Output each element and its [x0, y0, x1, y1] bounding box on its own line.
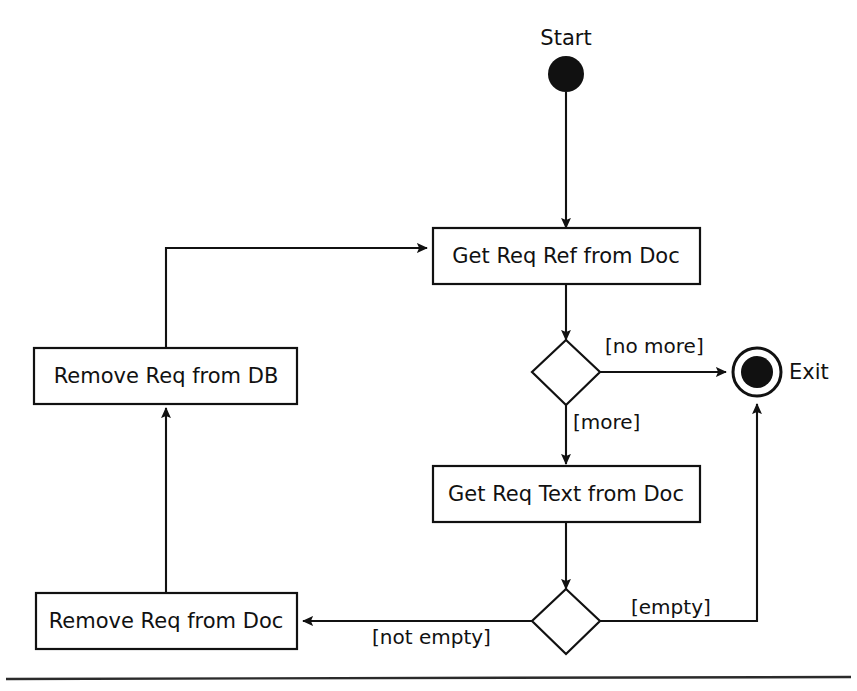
activity-remove-req-doc-label: Remove Req from Doc — [49, 609, 284, 633]
final-node-core — [741, 356, 773, 388]
page-divider-rule — [6, 677, 851, 679]
activity-diagram-canvas: Exit --> Get Req Text from Doc --> right… — [0, 0, 857, 691]
exit-label: Exit — [789, 360, 829, 384]
guard-more-label: [more] — [573, 410, 640, 434]
guard-no-more-label: [no more] — [605, 334, 704, 358]
activity-get-req-ref-label: Get Req Ref from Doc — [452, 244, 679, 268]
initial-node — [548, 56, 584, 92]
activity-get-req-text-label: Get Req Text from Doc — [448, 482, 684, 506]
decision-more[interactable] — [532, 340, 600, 405]
activity-remove-req-db-label: Remove Req from DB — [54, 364, 279, 388]
flow-remove-req-db-to-get-req-ref — [166, 248, 427, 348]
decision-empty[interactable] — [532, 589, 600, 654]
activity-diagram-svg: Exit --> Get Req Text from Doc --> right… — [0, 0, 857, 691]
guard-empty-label: [empty] — [631, 595, 711, 619]
guard-not-empty-label: [not empty] — [372, 625, 491, 649]
start-label: Start — [540, 26, 591, 50]
